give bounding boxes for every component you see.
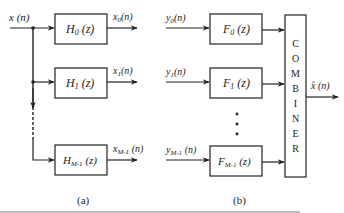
svg-text:x1(n): x1(n) [112,65,133,78]
filter-h1: H1 (z) x1(n) [55,65,137,98]
analysis-filter-bank: x (n) H0 (z) x0(n) H1 (z) x1(n) HM-1 (z)… [8,11,144,207]
filter-h0: H0 (z) x0(n) [55,11,137,44]
caption-a: (a) [77,194,90,207]
input-label: x (n) [8,11,30,24]
svg-text:I: I [294,98,297,109]
svg-text:O: O [292,53,299,64]
svg-text:R: R [292,143,299,154]
cropped-caption-line [0,211,300,213]
svg-text:y1(n): y1(n) [165,66,186,79]
filter-hm1: HM-1 (z) xM-1 (n) [55,143,144,175]
svg-text:E: E [292,128,298,139]
caption-b: (b) [233,194,246,207]
svg-text:H0 (z): H0 (z) [65,22,94,37]
svg-text:N: N [292,113,299,124]
svg-text:yM-1 (n): yM-1 (n) [165,144,197,157]
filter-f1: y1(n) F1 (z) [165,66,284,98]
filter-fm1: yM-1 (n) FM-1 (z) [165,144,284,176]
ellipsis-dots [236,113,239,136]
filter-f0: y0(n) F0 (z) [165,12,284,44]
svg-text:xM-1 (n): xM-1 (n) [112,143,144,156]
svg-text:B: B [292,83,299,94]
svg-text:y0(n): y0(n) [165,12,186,25]
svg-text:F1 (z): F1 (z) [222,76,250,91]
output-label: x̂ (n) [310,80,330,92]
combiner-block: C O M B I N E R [285,15,306,177]
svg-text:x0(n): x0(n) [112,11,133,24]
branch-line [33,140,54,160]
svg-text:M: M [291,68,300,79]
svg-text:C: C [292,38,299,49]
svg-text:H1 (z): H1 (z) [65,76,94,91]
synthesis-filter-bank: y0(n) F0 (z) y1(n) F1 (z) yM-1 (n) FM-1 … [165,12,338,207]
filter-bank-diagram: x (n) H0 (z) x0(n) H1 (z) x1(n) HM-1 (z)… [0,0,344,213]
svg-text:F0 (z): F0 (z) [222,22,250,37]
